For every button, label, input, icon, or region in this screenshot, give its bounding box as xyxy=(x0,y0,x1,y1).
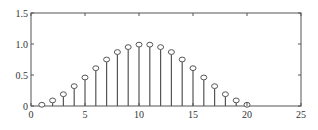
stem-marker xyxy=(82,75,88,80)
stem-point xyxy=(168,50,174,106)
stem-marker xyxy=(50,98,56,103)
stem-marker xyxy=(212,84,218,89)
stem-marker xyxy=(179,57,185,62)
y-axis-ticks: 00.51.01.5 xyxy=(16,8,302,112)
stem-marker xyxy=(168,50,174,55)
stem-point xyxy=(233,98,239,106)
chart-svg: 0510152025 00.51.01.5 xyxy=(0,0,318,130)
stem-point xyxy=(212,84,218,106)
stem-marker xyxy=(114,50,120,55)
x-tick-label: 0 xyxy=(29,109,34,120)
stem-marker xyxy=(104,57,110,62)
stem-point xyxy=(125,45,131,106)
stem-marker xyxy=(201,75,207,80)
stem-marker xyxy=(190,66,196,71)
stem-marker xyxy=(93,66,99,71)
stem-point xyxy=(60,92,66,106)
stem-marker xyxy=(60,92,66,97)
x-axis-ticks: 0510152025 xyxy=(29,13,307,120)
y-tick-label: 0.5 xyxy=(16,70,29,81)
x-tick-label: 5 xyxy=(83,109,88,120)
stem-marker xyxy=(147,42,153,47)
stem-point xyxy=(136,42,142,106)
stem-point xyxy=(104,57,110,106)
stem-point xyxy=(158,45,164,106)
x-tick-label: 15 xyxy=(188,109,198,120)
axes-box xyxy=(31,13,301,106)
stem-point xyxy=(71,84,77,106)
y-tick-label: 1.0 xyxy=(16,39,29,50)
stem-marker xyxy=(136,42,142,47)
y-tick-label: 1.5 xyxy=(16,8,29,19)
stem-point xyxy=(39,102,45,107)
stem-marker xyxy=(39,102,45,107)
y-tick-label: 0 xyxy=(23,101,28,112)
stem-chart: 0510152025 00.51.01.5 xyxy=(0,0,318,130)
x-tick-label: 25 xyxy=(296,109,306,120)
plot-area xyxy=(31,13,301,106)
stem-point xyxy=(201,75,207,106)
stem-marker xyxy=(125,45,131,50)
stem-point xyxy=(179,57,185,106)
stem-marker xyxy=(233,98,239,103)
stem-point xyxy=(82,75,88,106)
stem-point xyxy=(222,92,228,106)
data-stems xyxy=(39,42,250,107)
stem-point xyxy=(50,98,56,106)
x-tick-label: 20 xyxy=(242,109,252,120)
stem-marker xyxy=(71,84,77,89)
stem-marker xyxy=(222,92,228,97)
x-tick-label: 10 xyxy=(134,109,144,120)
stem-marker xyxy=(158,45,164,50)
stem-point xyxy=(93,66,99,106)
stem-point xyxy=(114,50,120,106)
stem-point xyxy=(190,66,196,106)
stem-point xyxy=(147,42,153,106)
